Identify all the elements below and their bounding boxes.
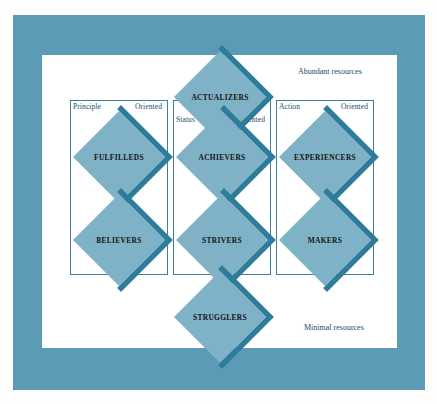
segment-label-actualizers: ACTUALIZERS [166, 93, 274, 102]
segment-label-strugglers: STRUGGLERS [166, 313, 274, 322]
vals-diagram-page: Principle Oriented Status Oriented Actio… [0, 0, 437, 404]
minimal-resources-label: Minimal resources [304, 323, 364, 332]
segment-believers[interactable]: BELIEVERS [65, 190, 173, 298]
segment-label-achievers: ACHIEVERS [168, 153, 276, 162]
segment-label-makers: MAKERS [271, 236, 379, 245]
segment-makers[interactable]: MAKERS [271, 190, 379, 298]
diagram-canvas: Principle Oriented Status Oriented Actio… [42, 55, 397, 348]
abundant-resources-label: Abundant resources [298, 67, 362, 76]
segment-label-strivers: STRIVERS [168, 236, 276, 245]
segment-label-fulfilleds: FULFILLEDS [65, 153, 173, 162]
segment-strugglers[interactable]: STRUGGLERS [166, 267, 274, 375]
segment-label-experiencers: EXPERIENCERS [271, 153, 379, 162]
segment-label-believers: BELIEVERS [65, 236, 173, 245]
